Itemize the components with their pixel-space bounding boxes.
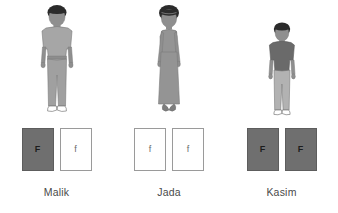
- allele-cards-malik: F f: [0, 128, 113, 172]
- allele-symbol: F: [260, 145, 266, 154]
- allele-card[interactable]: F: [22, 128, 54, 171]
- person-group-kasim: F F Kasim: [225, 0, 338, 213]
- allele-card[interactable]: f: [134, 128, 166, 171]
- person-group-jada: f f Jada: [113, 0, 225, 213]
- allele-cards-jada: f f: [113, 128, 225, 172]
- figure-malik: [0, 0, 113, 124]
- standing-boy-figure-icon: [22, 0, 92, 124]
- figure-kasim: [225, 0, 338, 124]
- figure-jada: [113, 0, 225, 124]
- allele-symbol: F: [298, 145, 304, 154]
- allele-symbol: f: [149, 145, 152, 154]
- genotype-diagram: F f Malik: [0, 0, 338, 213]
- person-name-label: Jada: [113, 186, 225, 198]
- allele-card[interactable]: F: [285, 128, 317, 171]
- standing-girl-dress-figure-icon: [134, 0, 204, 124]
- allele-cards-kasim: F F: [225, 128, 338, 172]
- allele-card[interactable]: f: [60, 128, 92, 171]
- allele-symbol: F: [35, 145, 41, 154]
- person-name-label: Malik: [0, 186, 113, 198]
- standing-child-figure-icon: [252, 18, 312, 142]
- allele-card[interactable]: f: [172, 128, 204, 171]
- allele-symbol: f: [187, 145, 190, 154]
- person-name-label: Kasim: [225, 186, 338, 198]
- person-group-malik: F f Malik: [0, 0, 113, 213]
- allele-card[interactable]: F: [247, 128, 279, 171]
- allele-symbol: f: [74, 145, 77, 154]
